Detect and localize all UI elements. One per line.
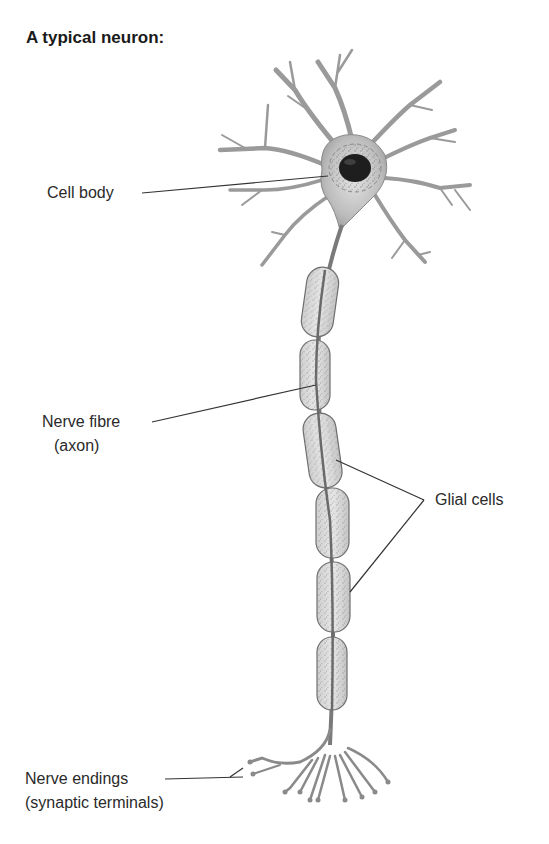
axon-leader — [152, 385, 316, 422]
label-glial-cells: Glial cells — [435, 489, 503, 511]
label-nerve-fibre: Nerve fibre — [42, 411, 120, 433]
nerve-endings-leader — [165, 777, 243, 779]
cell-body — [321, 135, 387, 230]
synaptic-terminals — [250, 730, 388, 800]
glial-leader-lower — [350, 500, 424, 592]
label-cell-body: Cell body — [47, 182, 114, 204]
nucleus — [339, 154, 371, 182]
glial-leader-upper — [336, 460, 424, 500]
label-synaptic-terminals: (synaptic terminals) — [25, 792, 164, 814]
label-nerve-endings: Nerve endings — [25, 768, 128, 790]
leader-lines — [142, 176, 424, 779]
label-axon: (axon) — [54, 435, 99, 457]
